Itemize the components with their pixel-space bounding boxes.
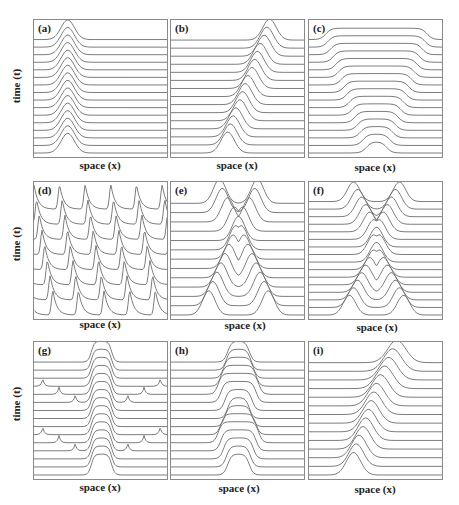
x-axis-label-f: space (x) — [310, 321, 444, 333]
trace-line — [309, 197, 443, 217]
trace-line — [309, 205, 443, 225]
trace-line — [34, 20, 168, 40]
plot-f — [309, 182, 443, 320]
y-axis-label-row3: time (t) — [10, 374, 22, 434]
trace-line — [309, 182, 443, 202]
trace-line — [309, 28, 443, 39]
x-axis-label-i: space (x) — [308, 483, 442, 495]
trace-line — [34, 185, 168, 209]
panel-label-e: (e) — [175, 184, 187, 196]
panel-label-b: (b) — [175, 22, 188, 34]
panel-a: (a) — [33, 19, 168, 158]
panel-h: (h) — [170, 341, 305, 480]
plot-a — [34, 20, 168, 158]
trace-line — [171, 51, 305, 72]
panel-f: (f) — [308, 181, 443, 320]
panel-c: (c) — [308, 19, 443, 158]
plot-i — [309, 342, 443, 480]
panel-label-i: (i) — [313, 344, 323, 356]
plot-h — [171, 342, 305, 480]
panel-b: (b) — [170, 19, 305, 158]
plot-b — [171, 20, 305, 158]
panel-i: (i) — [308, 341, 443, 480]
trace-line — [171, 282, 305, 306]
trace-line — [309, 349, 443, 371]
trace-line — [171, 43, 305, 64]
panel-label-a: (a) — [38, 22, 51, 34]
x-axis-label-c: space (x) — [308, 161, 442, 173]
x-axis-label-g: space (x) — [33, 481, 167, 493]
plot-g — [34, 342, 168, 480]
x-axis-label-a: space (x) — [33, 159, 167, 171]
plot-e — [171, 182, 305, 320]
trace-line — [171, 342, 305, 362]
trace-line — [34, 342, 168, 362]
trace-line — [171, 182, 305, 203]
trace-line — [309, 295, 443, 315]
x-axis-label-h: space (x) — [172, 482, 306, 494]
panel-label-g: (g) — [38, 344, 51, 356]
panel-label-c: (c) — [313, 22, 325, 34]
trace-line — [309, 190, 443, 210]
panel-label-h: (h) — [175, 344, 188, 356]
panel-e: (e) — [170, 181, 305, 320]
plot-d — [34, 182, 168, 320]
trace-line — [171, 27, 305, 48]
trace-line — [171, 67, 305, 88]
trace-line — [171, 20, 305, 40]
trace-line — [171, 59, 305, 80]
trace-line — [171, 291, 305, 315]
y-axis-label-row1: time (t) — [10, 56, 22, 116]
x-axis-label-b: space (x) — [170, 159, 304, 171]
plot-c — [309, 20, 443, 158]
y-axis-label-row2: time (t) — [10, 214, 22, 274]
panel-g: (g) — [33, 341, 168, 480]
trace-line — [309, 342, 443, 363]
x-axis-label-e: space (x) — [178, 319, 312, 331]
x-axis-label-d: space (x) — [33, 318, 167, 330]
panel-label-f: (f) — [313, 184, 324, 196]
trace-line — [171, 188, 305, 212]
panel-d: (d) — [33, 181, 168, 320]
panel-label-d: (d) — [38, 184, 51, 196]
